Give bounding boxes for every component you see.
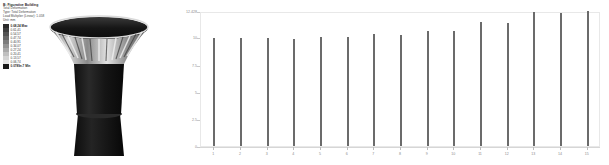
legend-min-label: 0.0789e-7 Min [9,64,30,68]
y-axis-ticks [160,12,200,147]
x-axis-tick-label: 4 [292,152,294,156]
x-axis-tick-label: 6 [346,152,348,156]
bar [587,11,589,146]
x-axis-tick-mark [240,147,241,150]
x-axis-tick-label: 3 [266,152,268,156]
x-axis-tick-label: 8 [399,152,401,156]
x-axis-tick-mark [267,147,268,150]
model-funnel-cavity [50,17,148,39]
bar [267,38,269,146]
x-axis-tick-label: 1 [212,152,214,156]
x-axis-tick-mark [320,147,321,150]
bar [560,13,562,146]
model-shaft [74,64,124,114]
x-axis-tick-label: 14 [558,152,562,156]
bar [480,22,482,146]
x-axis-tick-label: 10 [451,152,455,156]
bar [453,31,455,146]
x-axis-tick-mark [453,147,454,150]
x-axis-tick-label: 9 [426,152,428,156]
x-axis-tick-mark [347,147,348,150]
bar [507,23,509,146]
x-axis-tick-mark [587,147,588,150]
x-axis: 123456789101112131415 [200,147,600,163]
x-axis-tick-mark [507,147,508,150]
bar-series [201,13,599,146]
plot-area [200,12,600,147]
bar [240,38,242,146]
bar [427,31,429,146]
x-axis-tick-mark [400,147,401,150]
fea-results-view: B: Figurative Building Total Deformation… [0,0,609,165]
model-geometry [44,6,156,164]
x-axis-tick-label: 12 [505,152,509,156]
x-axis-tick-label: 15 [585,152,589,156]
mode-results-bar-chart[interactable]: 12.428107.552.50 123456789101112131415 [160,0,609,165]
model-base [74,114,124,156]
bar [533,12,535,146]
x-axis-tick-mark [560,147,561,150]
x-axis-tick-label: 13 [531,152,535,156]
model-viewport[interactable]: B: Figurative Building Total Deformation… [0,0,160,165]
bar [373,34,375,146]
x-axis-tick-mark [373,147,374,150]
x-axis-tick-mark [293,147,294,150]
bar [320,37,322,146]
bar [347,37,349,146]
x-axis-tick-label: 2 [239,152,241,156]
bar [213,38,215,146]
x-axis-tick-mark [427,147,428,150]
x-axis-tick-mark [213,147,214,150]
x-axis-tick-mark [533,147,534,150]
x-axis-tick-label: 5 [319,152,321,156]
x-axis-tick-label: 7 [372,152,374,156]
bar [400,35,402,146]
bar [293,39,295,146]
x-axis-tick-mark [480,147,481,150]
figurative-building-model[interactable] [44,6,156,164]
x-axis-tick-label: 11 [478,152,482,156]
